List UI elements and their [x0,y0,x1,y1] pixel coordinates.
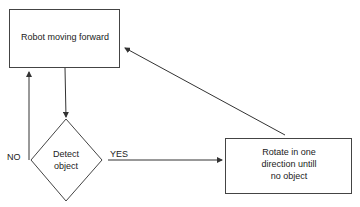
label-rotate: Rotate in one direction untill no object [226,146,352,182]
label-rotate-line3: no object [226,170,352,182]
label-rotate-line1: Rotate in one [226,146,352,158]
label-robot-moving-forward: Robot moving forward [10,31,120,43]
label-rotate-line2: direction untill [226,158,352,170]
flowchart-canvas: Robot moving forward Detect object Rotat… [0,0,360,207]
arrow-forward-to-detect [65,68,66,117]
arrow-rotate-to-forward [125,48,285,135]
label-detect-object: Detect object [36,148,96,172]
label-yes: YES [110,148,128,160]
label-no: NO [7,151,21,163]
label-detect-line1: Detect [36,148,96,160]
label-detect-line2: object [36,160,96,172]
